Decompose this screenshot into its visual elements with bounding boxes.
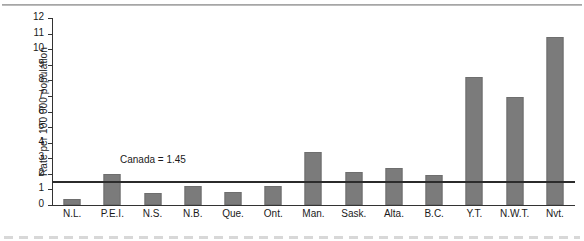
bar[interactable] xyxy=(546,37,563,205)
bar-group: P.E.I. xyxy=(92,18,132,205)
bar-group: Nvt. xyxy=(535,18,575,205)
x-tick-label: Y.T. xyxy=(466,208,482,219)
bar-series: N.L.P.E.I.N.S.N.B.Que.Ont.Man.Sask.Alta.… xyxy=(52,18,575,205)
y-tick-label: 1 xyxy=(38,182,44,194)
top-divider-rule xyxy=(2,4,582,6)
y-tick-label: 8 xyxy=(38,73,44,85)
x-tick-label: B.C. xyxy=(424,208,443,219)
y-tick-label: 0 xyxy=(38,198,44,210)
canada-average-line xyxy=(52,181,575,183)
bar[interactable] xyxy=(345,172,362,206)
x-tick-label: Que. xyxy=(222,208,244,219)
bar-group: Que. xyxy=(213,18,253,205)
x-tick-label: N.S. xyxy=(143,208,162,219)
x-tick-label: N.B. xyxy=(183,208,202,219)
bar-group: Sask. xyxy=(334,18,374,205)
bar-group: Man. xyxy=(293,18,333,205)
x-axis-line xyxy=(52,205,575,206)
bar[interactable] xyxy=(385,168,402,205)
bar[interactable] xyxy=(426,175,443,205)
bar[interactable] xyxy=(104,174,121,205)
bar[interactable] xyxy=(225,192,242,205)
bar-chart-figure: Rate per 100 000 population 012345678910… xyxy=(0,0,584,241)
bar[interactable] xyxy=(144,193,161,205)
bar[interactable] xyxy=(265,186,282,205)
x-tick-label: P.E.I. xyxy=(101,208,124,219)
x-tick-label: Nvt. xyxy=(546,208,564,219)
bar-group: N.W.T. xyxy=(495,18,535,205)
y-tick-label: 7 xyxy=(38,89,44,101)
bar-group: N.B. xyxy=(173,18,213,205)
bar-group: N.L. xyxy=(52,18,92,205)
bar-group: Ont. xyxy=(253,18,293,205)
y-tick-label: 6 xyxy=(38,105,44,117)
bar[interactable] xyxy=(506,97,523,205)
bar[interactable] xyxy=(305,152,322,205)
x-tick-label: Man. xyxy=(302,208,324,219)
y-tick-label: 4 xyxy=(38,136,44,148)
x-tick-label: N.L. xyxy=(63,208,81,219)
bar[interactable] xyxy=(64,199,81,205)
canada-average-label: Canada = 1.45 xyxy=(120,154,186,165)
x-tick-label: Ont. xyxy=(264,208,283,219)
bottom-scan-artifact xyxy=(4,236,580,239)
bar-group: Y.T. xyxy=(454,18,494,205)
y-tick-label: 12 xyxy=(33,11,44,23)
bar[interactable] xyxy=(184,186,201,205)
plot-area: 0123456789101112 N.L.P.E.I.N.S.N.B.Que.O… xyxy=(52,18,575,205)
bar-group: N.S. xyxy=(132,18,172,205)
y-tick-label: 10 xyxy=(33,42,44,54)
x-tick-label: Alta. xyxy=(384,208,404,219)
y-tick-label: 9 xyxy=(38,58,44,70)
y-tick-mark xyxy=(48,205,52,206)
x-tick-label: N.W.T. xyxy=(500,208,529,219)
bar-group: B.C. xyxy=(414,18,454,205)
y-tick-label: 3 xyxy=(38,151,44,163)
bar-group: Alta. xyxy=(374,18,414,205)
y-tick-label: 11 xyxy=(34,27,44,39)
y-tick-label: 5 xyxy=(38,120,44,132)
x-tick-label: Sask. xyxy=(341,208,366,219)
y-tick-label: 2 xyxy=(38,167,44,179)
bar[interactable] xyxy=(466,77,483,205)
